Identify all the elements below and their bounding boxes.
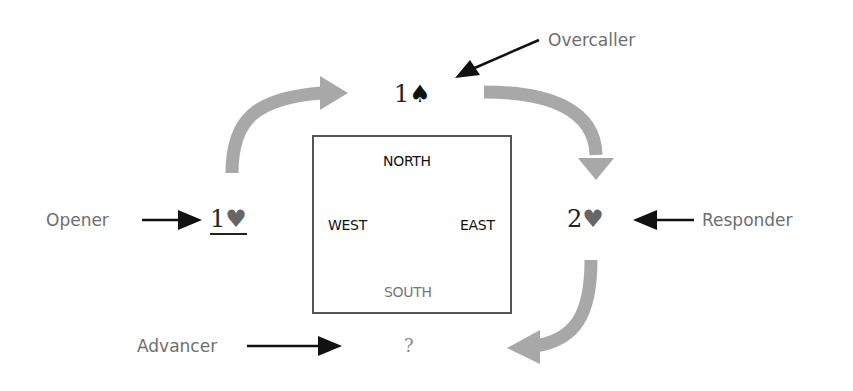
pointer-arrow-advancer (247, 336, 342, 356)
bid-overcaller: 1♠ (394, 80, 431, 108)
bid-responder: 2♥ (567, 205, 604, 233)
label-responder: Responder (702, 210, 793, 230)
label-advancer: Advancer (137, 336, 217, 356)
bid-opener: 1♥ (210, 205, 247, 235)
bridge-table: NORTH WEST EAST SOUTH (312, 135, 512, 314)
bid-level: 1 (210, 205, 225, 233)
label-opener: Opener (46, 210, 109, 230)
seat-west: WEST (328, 217, 367, 233)
pointer-arrow-overcaller (455, 40, 539, 78)
flow-arrow-responder-to-advancer (507, 260, 591, 364)
pointer-arrow-responder (633, 210, 694, 230)
label-overcaller: Overcaller (548, 30, 635, 50)
seat-north: NORTH (383, 153, 431, 169)
heart-icon: ♥ (582, 205, 604, 233)
heart-icon: ♥ (225, 205, 247, 233)
spade-icon: ♠ (409, 80, 431, 108)
seat-south: SOUTH (384, 284, 432, 300)
bid-level: 2 (567, 205, 582, 233)
bid-advancer: ? (404, 335, 414, 356)
seat-east: EAST (460, 217, 495, 233)
pointer-arrow-opener (142, 210, 202, 230)
bid-level: 1 (394, 80, 409, 108)
